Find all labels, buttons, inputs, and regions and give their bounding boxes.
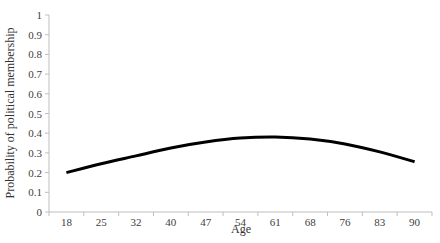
y-tick-label: 0.9 (28, 29, 42, 41)
x-tick-label: 76 (339, 216, 351, 228)
y-tick-label: 0 (37, 206, 43, 218)
x-axis-title: Age (231, 222, 251, 236)
x-tick-label: 90 (409, 216, 421, 228)
y-tick-label: 0.4 (28, 127, 42, 139)
x-tick-label: 83 (374, 216, 386, 228)
y-tick-label: 0.1 (28, 186, 42, 198)
y-tick-label: 0.7 (28, 68, 42, 80)
y-tick-label: 0.6 (28, 88, 42, 100)
x-tick-label: 18 (61, 216, 73, 228)
y-axis: 00.10.20.30.40.50.60.70.80.91 (28, 9, 49, 218)
y-tick-label: 0.5 (28, 108, 42, 120)
y-tick-label: 0.8 (28, 48, 42, 60)
y-tick-label: 0.3 (28, 147, 42, 159)
x-tick-label: 47 (200, 216, 212, 228)
x-tick-label: 61 (270, 216, 281, 228)
x-tick-label: 68 (305, 216, 317, 228)
y-axis-title: Probability of political membership (3, 28, 17, 199)
y-tick-label: 1 (37, 9, 43, 21)
x-tick-label: 25 (96, 216, 108, 228)
y-tick-label: 0.2 (28, 167, 42, 179)
x-tick-label: 32 (131, 216, 142, 228)
x-tick-label: 40 (165, 216, 177, 228)
probability-curve (66, 137, 414, 173)
chart: 00.10.20.30.40.50.60.70.80.91 1825324047… (0, 0, 440, 243)
